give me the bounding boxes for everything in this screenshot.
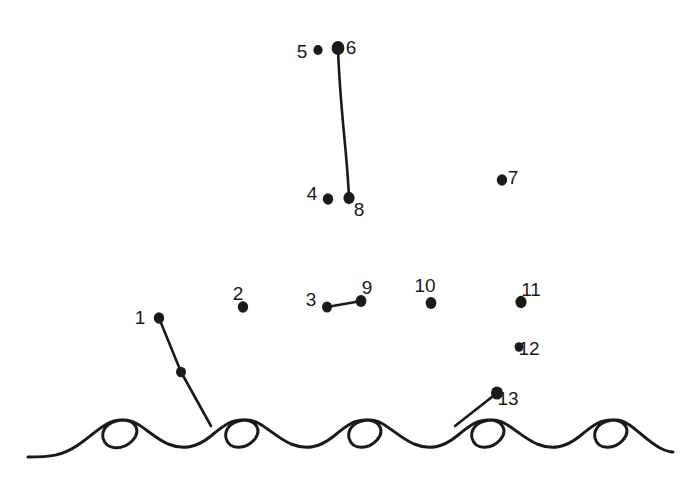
connect-the-dots-puzzle: 12345678910111213: [0, 0, 693, 493]
dot-marker-3[interactable]: [322, 302, 332, 313]
wave-group: [28, 420, 673, 457]
dot-marker-5[interactable]: [313, 45, 322, 55]
dot-marker-4[interactable]: [323, 193, 333, 204]
dot-marker-6[interactable]: [332, 41, 345, 55]
dot-label-12: 12: [518, 338, 539, 359]
dot-label-11: 11: [521, 279, 541, 300]
dot-label-7: 7: [508, 167, 519, 188]
dot-label-8: 8: [354, 199, 365, 220]
dot-group-6[interactable]: 6: [332, 37, 357, 58]
dot-group-1[interactable]: 1: [135, 307, 164, 328]
extra-dots-group: [176, 367, 186, 378]
dot-label-2: 2: [233, 283, 244, 304]
dot-group-5[interactable]: 5: [297, 41, 323, 62]
dot-label-3: 3: [306, 289, 317, 310]
dot-group-13[interactable]: 13: [491, 386, 519, 409]
dot-label-9: 9: [362, 277, 373, 298]
dot-group-9[interactable]: 9: [356, 277, 373, 307]
mast-midpoint-dot: [176, 367, 186, 378]
drawn-strokes-group: [159, 48, 497, 426]
sail-edge-line: [338, 48, 349, 198]
dot-marker-10[interactable]: [426, 297, 437, 309]
dot-marker-7[interactable]: [497, 174, 507, 185]
dot-label-10: 10: [414, 275, 435, 296]
dot-label-4: 4: [307, 183, 318, 204]
dot-group-3[interactable]: 3: [306, 289, 332, 313]
numbered-dots-group: 12345678910111213: [135, 37, 541, 409]
dot-group-2[interactable]: 2: [233, 283, 248, 313]
ocean-wave-line: [28, 420, 673, 457]
dot-group-11[interactable]: 11: [515, 279, 540, 308]
dot-label-13: 13: [497, 388, 518, 409]
dot-label-6: 6: [346, 37, 357, 58]
dot-group-10[interactable]: 10: [414, 275, 436, 309]
puzzle-drawing-surface: 12345678910111213: [0, 0, 693, 493]
dot-group-12[interactable]: 12: [515, 338, 540, 359]
dot-group-4[interactable]: 4: [307, 183, 333, 205]
dot-label-1: 1: [135, 307, 146, 328]
dot-group-7[interactable]: 7: [497, 167, 518, 188]
dot-label-5: 5: [297, 41, 308, 62]
dot-group-8[interactable]: 8: [343, 192, 364, 220]
dot-marker-1[interactable]: [154, 312, 164, 323]
